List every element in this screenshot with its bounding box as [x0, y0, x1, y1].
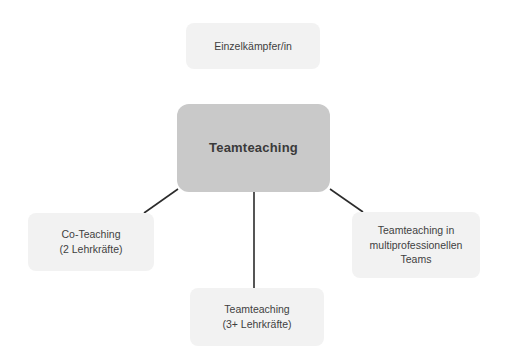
node-co-teaching-label: Co-Teaching (2 Lehrkräfte) — [53, 227, 128, 257]
diagram-canvas: Einzelkämpfer/in Teamteaching Co-Teachin… — [0, 0, 508, 364]
node-teamteaching-drei-plus[interactable]: Teamteaching (3+ Lehrkräfte) — [190, 288, 324, 346]
node-co-teaching[interactable]: Co-Teaching (2 Lehrkräfte) — [28, 213, 154, 271]
node-teamteaching-multiprofessionell-label: Teamteaching in multiprofessionellen Tea… — [364, 223, 469, 268]
node-einzelkaempfer[interactable]: Einzelkämpfer/in — [186, 23, 320, 69]
node-teamteaching-multiprofessionell[interactable]: Teamteaching in multiprofessionellen Tea… — [352, 212, 480, 278]
node-teamteaching-center-label: Teamteaching — [203, 139, 304, 157]
node-teamteaching-center[interactable]: Teamteaching — [177, 104, 330, 192]
connector-center-to-left — [144, 189, 178, 213]
node-einzelkaempfer-label: Einzelkämpfer/in — [208, 39, 298, 54]
node-teamteaching-drei-plus-label: Teamteaching (3+ Lehrkräfte) — [216, 302, 297, 332]
connector-center-to-right — [330, 189, 363, 212]
